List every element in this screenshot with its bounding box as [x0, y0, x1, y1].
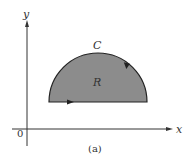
curve-label: C [93, 39, 102, 52]
x-axis-arrow-icon [166, 127, 173, 131]
y-axis-arrow-icon [25, 20, 29, 27]
caption: (a) [88, 143, 102, 154]
diagram-canvas: y x 0 C R (a) [0, 0, 193, 165]
x-axis-label: x [176, 123, 183, 136]
origin-label: 0 [17, 128, 23, 139]
y-axis-label: y [22, 8, 30, 21]
region-label: R [92, 76, 101, 89]
